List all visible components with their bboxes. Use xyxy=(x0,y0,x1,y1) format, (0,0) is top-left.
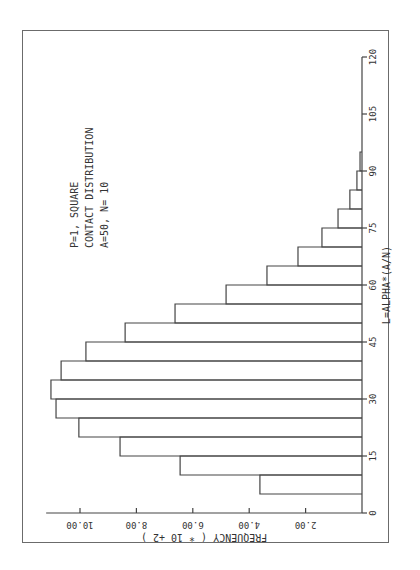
x-tick-label: 15 xyxy=(368,451,378,462)
histogram-chart: 01530456075901051202.004.006.008.0010.00… xyxy=(0,0,420,570)
chart-annotation-line: CONTACT DISTRIBUTION xyxy=(84,128,95,248)
y-tick-label: 8.00 xyxy=(126,520,148,530)
histogram-bar xyxy=(79,418,362,437)
histogram-bar xyxy=(322,228,362,247)
histogram-bar xyxy=(180,456,362,475)
histogram-bar xyxy=(56,399,362,418)
y-tick-label: 2.00 xyxy=(295,520,317,530)
x-tick-label: 60 xyxy=(368,280,378,291)
x-tick-label: 45 xyxy=(368,337,378,348)
x-tick-label: 0 xyxy=(368,510,378,515)
histogram-bar xyxy=(267,266,362,285)
x-tick-label: 105 xyxy=(368,106,378,122)
x-tick-label: 75 xyxy=(368,223,378,234)
x-axis-title: L=ALPHA*(A/N) xyxy=(381,246,392,324)
histogram-bar xyxy=(298,247,362,266)
histogram-bar xyxy=(61,361,362,380)
histogram-bar xyxy=(350,190,362,209)
chart-annotation-line: P=1, SQUARE xyxy=(69,182,80,248)
histogram-bar xyxy=(338,209,362,228)
x-tick-label: 30 xyxy=(368,394,378,405)
histogram-bar xyxy=(226,285,362,304)
histogram-bar xyxy=(86,342,362,361)
y-tick-label: 4.00 xyxy=(238,520,260,530)
histogram-bar xyxy=(357,171,362,190)
histogram-bar xyxy=(175,304,362,323)
y-tick-label: 10.00 xyxy=(66,520,93,530)
histogram-bar xyxy=(125,323,362,342)
x-tick-label: 90 xyxy=(368,166,378,177)
y-axis-title: FREQUENCY ( * 10 +2 ) xyxy=(141,532,267,543)
histogram-bar xyxy=(120,437,362,456)
histogram-bar xyxy=(51,380,362,399)
histogram-bar xyxy=(260,475,362,494)
chart-annotation-line: A=50, N= 10 xyxy=(99,182,110,248)
y-tick-label: 6.00 xyxy=(182,520,204,530)
x-tick-label: 120 xyxy=(368,49,378,65)
